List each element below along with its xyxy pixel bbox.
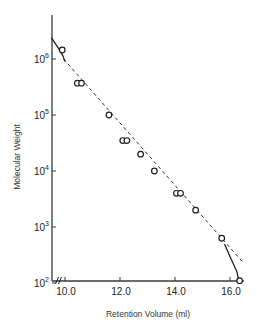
data-point-marker [152, 168, 158, 174]
y-tick-label: 102 [34, 276, 49, 289]
data-markers [59, 47, 242, 283]
data-point-marker [193, 207, 199, 213]
fit-lines [51, 38, 242, 282]
data-point-marker [138, 151, 144, 157]
axes [52, 15, 244, 284]
y-tick-label: 104 [34, 164, 49, 177]
x-axis-title: Retention Volume (ml) [106, 309, 190, 319]
y-axis-title: Molecular Weight [12, 124, 22, 190]
x-tick-label: 12.0 [111, 286, 131, 297]
data-point-marker [237, 278, 243, 284]
x-tick-label: 16.0 [221, 286, 241, 297]
x-tick-label: 14.0 [166, 286, 186, 297]
dashed-fit-line [64, 59, 243, 262]
data-point-marker [178, 190, 184, 196]
y-tick-label: 103 [34, 220, 49, 233]
data-point-marker [59, 47, 65, 53]
y-axis-ticks: 102103104105106 [34, 52, 56, 289]
x-tick-label: 10.0 [56, 286, 76, 297]
data-point-marker [79, 80, 85, 86]
data-point-marker [106, 112, 112, 118]
x-axis-ticks: 10.012.014.016.0 [56, 277, 241, 297]
y-tick-label: 106 [34, 52, 49, 65]
data-point-marker [219, 235, 225, 241]
y-tick-label: 105 [34, 108, 49, 121]
data-point-marker [124, 138, 130, 144]
chart: 102103104105106 10.012.014.016.0 Retenti… [0, 0, 257, 329]
